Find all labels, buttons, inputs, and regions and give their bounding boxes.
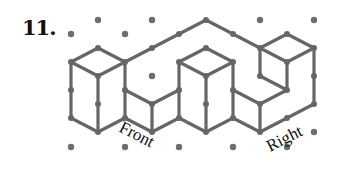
vertex-dots: [68, 17, 317, 135]
solid-edges: [71, 20, 314, 132]
isometric-drawing: Front Right: [0, 0, 341, 179]
